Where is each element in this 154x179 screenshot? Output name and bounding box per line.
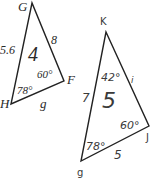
- vertex-label-k: K: [100, 16, 107, 27]
- side-label-gh: 5.6: [0, 43, 15, 57]
- side-label-kj: i: [131, 75, 134, 85]
- triangle-4: G H F 5.6 8 g 4 60° 78°: [0, 0, 76, 111]
- vertex-label-h: H: [0, 96, 10, 111]
- angle-label-f: 60°: [37, 68, 53, 80]
- vertex-label-j: J: [145, 132, 149, 143]
- vertex-label-f: F: [66, 72, 76, 87]
- angle-label-h: 78°: [17, 84, 33, 96]
- angle-label-k: 42°: [101, 71, 121, 84]
- side-label-left: 7: [82, 91, 90, 105]
- vertex-label-bottom: g: [77, 167, 83, 178]
- side-label-bottom: 5: [114, 148, 122, 162]
- geometry-diagram: G H F 5.6 8 g 4 60° 78° K J g 7 i 5 42° …: [0, 0, 154, 179]
- angle-label-bottom: 78°: [86, 140, 106, 153]
- triangle-number-5: 5: [102, 88, 116, 113]
- angle-label-j: 60°: [120, 119, 140, 132]
- triangle-5: K J g 7 i 5 42° 5 60° 78°: [77, 16, 149, 178]
- side-label-gf: 8: [51, 33, 57, 47]
- triangle-number-4: 4: [28, 43, 38, 65]
- side-label-hf: g: [40, 96, 47, 111]
- vertex-label-g: G: [18, 0, 28, 14]
